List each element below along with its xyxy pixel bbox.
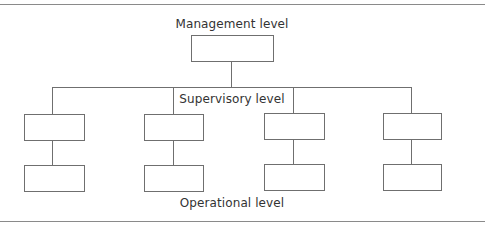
management-level-label: Management level — [176, 17, 289, 31]
operational-level-label: Operational level — [180, 196, 284, 210]
supervisory-box-4 — [383, 113, 442, 140]
top-rule — [0, 4, 485, 5]
operational-connector-3 — [293, 139, 294, 165]
operational-box-1 — [24, 165, 85, 192]
management-connector — [231, 61, 232, 87]
supervisory-connector-2 — [173, 87, 174, 115]
supervisory-connector-3 — [293, 87, 294, 114]
supervisory-box-2 — [144, 114, 204, 141]
supervisory-box-1 — [24, 114, 85, 141]
supervisory-branch-line — [52, 87, 412, 88]
management-box — [191, 35, 274, 62]
operational-box-4 — [383, 164, 442, 191]
bottom-rule — [0, 221, 485, 222]
supervisory-level-label: Supervisory level — [179, 92, 284, 106]
operational-connector-4 — [411, 139, 412, 165]
operational-box-2 — [144, 165, 204, 192]
supervisory-connector-1 — [52, 87, 53, 115]
operational-box-3 — [264, 164, 325, 191]
operational-connector-1 — [52, 140, 53, 166]
supervisory-connector-4 — [411, 87, 412, 114]
operational-connector-2 — [173, 140, 174, 166]
supervisory-box-3 — [264, 113, 325, 140]
